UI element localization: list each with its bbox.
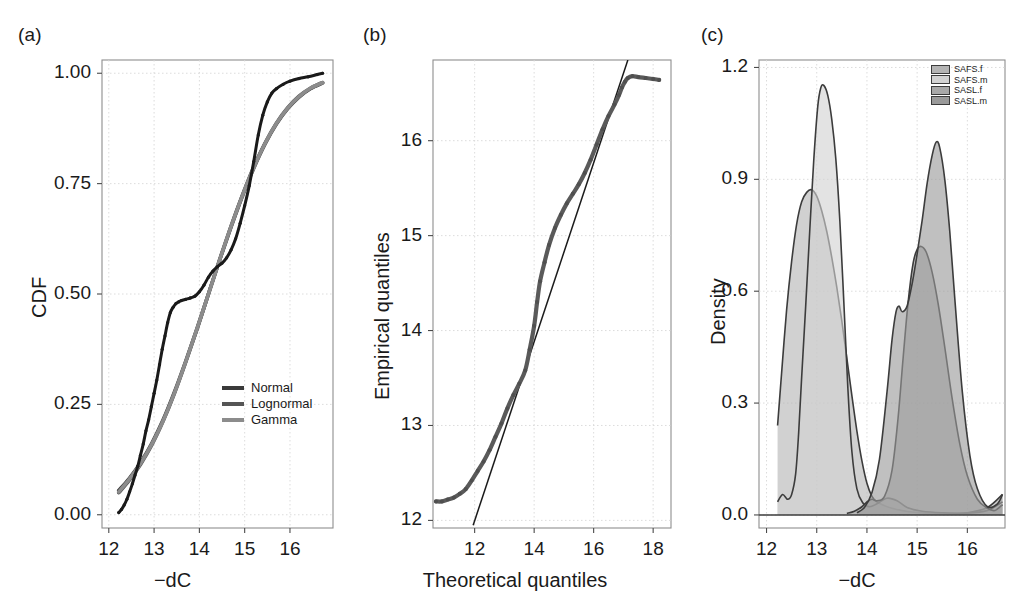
density-panel: (c) −dC Density SAFS.fSAFS.mSASL.fSASL.m…	[685, 0, 1029, 614]
cdf-y-tick: 0.25	[31, 392, 91, 414]
density-legend-item: SAFS.f	[931, 64, 988, 75]
qq-y-axis-title: Empirical quantiles	[371, 232, 394, 400]
cdf-legend: NormalLognormalGamma	[222, 380, 312, 428]
cdf-x-axis-title: −dC	[0, 569, 345, 592]
qq-x-tick: 18	[623, 538, 683, 560]
cdf-x-tick: 16	[260, 538, 320, 560]
cdf-legend-item: Gamma	[222, 412, 312, 428]
density-y-tick: 0.3	[688, 391, 748, 413]
qq-x-tick: 16	[564, 538, 624, 560]
cdf-y-tick: 0.75	[31, 172, 91, 194]
qq-y-tick: 16	[362, 129, 422, 151]
figure-root: (a) −dC CDF NormalLognormalGamma 1213141…	[0, 0, 1029, 614]
density-legend-item: SASL.f	[931, 85, 988, 96]
density-legend: SAFS.fSAFS.mSASL.fSASL.m	[931, 64, 988, 106]
density-legend-swatch-icon	[931, 65, 950, 74]
density-legend-label: SASL.m	[954, 96, 987, 107]
cdf-legend-swatch-icon	[222, 386, 244, 390]
qq-y-tick: 15	[362, 224, 422, 246]
density-legend-label: SASL.f	[954, 85, 982, 96]
cdf-legend-swatch-icon	[222, 402, 244, 406]
cdf-legend-label: Lognormal	[251, 396, 312, 412]
qq-y-tick: 12	[362, 508, 422, 530]
density-legend-swatch-icon	[931, 86, 950, 95]
density-y-tick: 0.6	[688, 279, 748, 301]
qq-panel: (b) Theoretical quantiles Empirical quan…	[345, 0, 685, 614]
qq-y-tick: 14	[362, 319, 422, 341]
density-x-axis-title: −dC	[685, 569, 1029, 592]
density-legend-item: SASL.m	[931, 96, 988, 107]
cdf-legend-item: Normal	[222, 380, 312, 396]
density-y-tick: 0.0	[688, 503, 748, 525]
cdf-legend-item: Lognormal	[222, 396, 312, 412]
qq-x-tick: 12	[445, 538, 505, 560]
cdf-legend-swatch-icon	[222, 418, 244, 422]
cdf-y-tick: 0.00	[31, 503, 91, 525]
density-legend-swatch-icon	[931, 75, 950, 84]
density-legend-label: SAFS.m	[954, 75, 988, 86]
cdf-legend-label: Normal	[251, 380, 293, 396]
density-legend-item: SAFS.m	[931, 75, 988, 86]
cdf-legend-label: Gamma	[251, 412, 297, 428]
qq-y-tick: 13	[362, 413, 422, 435]
density-x-tick: 16	[937, 538, 997, 560]
qq-x-tick: 14	[504, 538, 564, 560]
cdf-y-tick: 0.50	[31, 282, 91, 304]
qq-x-axis-title: Theoretical quantiles	[345, 569, 685, 592]
density-legend-swatch-icon	[931, 96, 950, 105]
density-y-tick: 1.2	[688, 55, 748, 77]
density-legend-label: SAFS.f	[954, 64, 983, 75]
density-y-tick: 0.9	[688, 167, 748, 189]
cdf-y-tick: 1.00	[31, 61, 91, 83]
cdf-panel: (a) −dC CDF NormalLognormalGamma 1213141…	[0, 0, 345, 614]
